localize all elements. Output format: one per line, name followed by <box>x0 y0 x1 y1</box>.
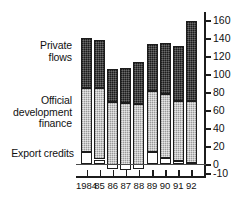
y-axis-tick-label-20: 20 <box>213 141 225 152</box>
bar-segment-private-flows <box>133 62 144 103</box>
bar-segment-official-development-finance <box>133 104 144 170</box>
bar-segment-official-development-finance <box>81 88 92 153</box>
y-axis-tick <box>206 92 211 94</box>
bar-segment-private-flows <box>173 46 184 101</box>
bar-segment-private-flows <box>94 40 105 89</box>
x-axis-tick <box>87 170 89 176</box>
bar-segment-official-development-finance <box>173 101 184 161</box>
x-axis-tick <box>126 170 128 176</box>
legend-label-official-development-finance: Official development finance <box>0 95 72 130</box>
y-axis-tick <box>206 38 211 40</box>
bar-segment-private-flows <box>160 43 171 94</box>
y-axis-tick-label-100: 100 <box>213 69 231 80</box>
y-axis-tick-label-80: 80 <box>213 87 225 98</box>
y-axis-tick <box>206 56 211 58</box>
y-axis-tick <box>206 74 211 76</box>
legend-label-export-credits: Export credits <box>0 148 74 160</box>
x-axis-tick <box>165 170 167 176</box>
y-axis-tick-label-40: 40 <box>213 123 225 134</box>
bar-segment-official-development-finance <box>186 101 197 163</box>
y-axis-tick <box>206 173 211 175</box>
bar-segment-private-flows <box>107 69 118 102</box>
bar-segment-export-credits <box>81 152 92 164</box>
x-axis-line <box>76 176 206 178</box>
y-axis-tick <box>206 110 211 112</box>
bar-segment-official-development-finance <box>94 88 105 159</box>
bar-segment-private-flows <box>147 44 158 91</box>
bar-segment-private-flows <box>120 68 131 103</box>
y-axis-tick <box>206 164 211 166</box>
bar-segment-private-flows <box>81 38 92 88</box>
y-axis-line <box>204 12 206 176</box>
stacked-bar-chart: Private flows Official development finan… <box>0 0 248 205</box>
x-axis-tick-label-92: 92 <box>178 181 204 191</box>
y-axis-tick-label-120: 120 <box>213 51 231 62</box>
x-axis-tick <box>139 170 141 176</box>
y-axis-tick <box>206 20 211 22</box>
x-axis-tick <box>191 170 193 176</box>
bar-segment-official-development-finance <box>107 102 118 169</box>
bar-segment-official-development-finance <box>147 91 158 152</box>
bar-segment-private-flows <box>186 21 197 101</box>
bar-segment-export-credits <box>147 152 158 164</box>
x-axis-tick <box>152 170 154 176</box>
y-axis-tick-label-140: 140 <box>213 33 231 44</box>
x-axis-tick <box>100 170 102 176</box>
legend-label-private-flows: Private flows <box>0 40 72 63</box>
x-axis-tick <box>178 170 180 176</box>
bar-segment-official-development-finance <box>160 94 171 158</box>
y-axis-tick-label-0: 0 <box>213 159 219 170</box>
zero-baseline <box>76 164 206 165</box>
y-axis-tick <box>206 146 211 148</box>
y-axis-tick-label-160: 160 <box>213 15 231 26</box>
y-axis-tick-label-60: 60 <box>213 105 225 116</box>
bar-segment-official-development-finance <box>120 103 131 171</box>
y-axis-tick <box>206 128 211 130</box>
x-axis-tick <box>113 170 115 176</box>
